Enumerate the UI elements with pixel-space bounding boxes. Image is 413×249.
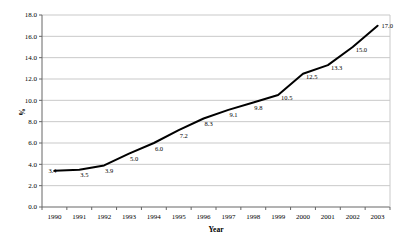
x-axis-title: Year xyxy=(209,225,225,234)
x-tick-label: 1999 xyxy=(271,213,286,221)
y-tick-label: 18.0 xyxy=(25,11,38,19)
y-axis-ticks: 0.02.04.06.08.010.012.014.016.018.0 xyxy=(25,11,42,211)
data-point-label: 3.9 xyxy=(105,167,113,174)
data-point-label: 9.8 xyxy=(254,104,262,111)
gridlines xyxy=(42,15,390,186)
data-point-label: 17.0 xyxy=(382,22,393,29)
y-tick-label: 0.0 xyxy=(28,203,37,211)
x-tick-label: 1995 xyxy=(172,213,187,221)
x-tick-label: 1997 xyxy=(221,213,236,221)
x-axis-ticks: 1990199119921993199419951996199719981999… xyxy=(42,207,390,221)
x-tick-label: 2002 xyxy=(346,213,361,221)
data-point-label: 10.5 xyxy=(281,94,292,101)
data-point-label: 5.0 xyxy=(130,155,138,162)
x-tick-label: 1998 xyxy=(246,213,261,221)
data-point-label: 9.1 xyxy=(229,111,237,118)
plot-frame xyxy=(42,15,390,207)
data-line xyxy=(54,26,377,171)
data-point-label: 8.3 xyxy=(205,120,213,127)
y-tick-label: 4.0 xyxy=(28,161,37,169)
chart-container: 0.02.04.06.08.010.012.014.016.018.0 1990… xyxy=(0,0,413,249)
data-point-label: 12.5 xyxy=(306,73,317,80)
x-tick-label: 1993 xyxy=(122,213,137,221)
x-tick-label: 1992 xyxy=(97,213,112,221)
y-axis-title: % xyxy=(18,108,27,116)
x-tick-label: 1996 xyxy=(197,213,212,221)
x-tick-label: 1994 xyxy=(147,213,162,221)
x-tick-label: 2000 xyxy=(296,213,311,221)
y-tick-label: 12.0 xyxy=(25,75,38,83)
y-tick-label: 10.0 xyxy=(25,97,38,105)
data-point-label: 3.4 xyxy=(48,167,57,174)
y-tick-label: 2.0 xyxy=(28,182,37,190)
x-tick-label: 2003 xyxy=(371,213,386,221)
data-point-label: 13.3 xyxy=(331,64,342,71)
x-tick-label: 1991 xyxy=(72,213,87,221)
x-tick-label: 2001 xyxy=(321,213,336,221)
line-chart: 0.02.04.06.08.010.012.014.016.018.0 1990… xyxy=(0,0,413,249)
data-point-label: 15.0 xyxy=(356,46,367,53)
y-tick-label: 14.0 xyxy=(25,54,38,62)
data-point-label: 3.5 xyxy=(80,171,88,178)
x-tick-label: 1990 xyxy=(47,213,62,221)
y-tick-label: 8.0 xyxy=(28,118,37,126)
data-point-label: 6.0 xyxy=(155,145,163,152)
y-tick-label: 16.0 xyxy=(25,33,38,41)
y-tick-label: 6.0 xyxy=(28,139,37,147)
data-series xyxy=(54,26,377,171)
data-point-label: 7.2 xyxy=(180,132,188,139)
